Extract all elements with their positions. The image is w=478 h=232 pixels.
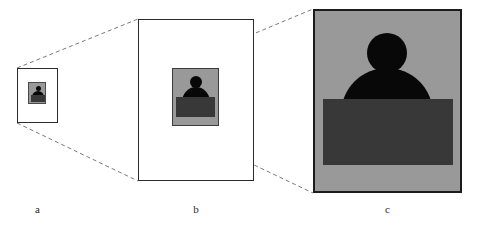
- panel-c-caption: c: [313, 204, 462, 215]
- panel-b-caption: b: [138, 204, 254, 215]
- panel-a-photo: [28, 82, 46, 104]
- figure-canvas: a b c: [0, 0, 478, 232]
- panel-c-photo: [315, 11, 460, 191]
- panel-b-photo: [172, 68, 219, 126]
- person-head-icon: [367, 33, 407, 73]
- connector-a-to-b-bottom: [17, 123, 138, 181]
- panel-a-caption: a: [17, 204, 58, 215]
- desk-rectangle: [323, 99, 453, 165]
- desk-rectangle: [176, 97, 215, 117]
- desk-rectangle: [31, 95, 46, 102]
- connector-a-to-b-top: [17, 19, 138, 68]
